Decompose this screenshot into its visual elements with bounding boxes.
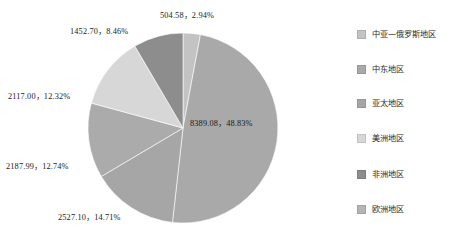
legend-item-label: 亚太地区	[372, 99, 404, 107]
legend-swatch-icon	[357, 30, 366, 39]
legend-item[interactable]: 非洲地区	[357, 168, 404, 180]
legend-item[interactable]: 中亚—俄罗斯地区	[357, 28, 436, 40]
pie-chart-figure: 504.58，2.94%8389.08，48.83%2527.10，14.71%…	[0, 0, 465, 245]
legend-item-label: 中东地区	[372, 65, 404, 73]
pie-data-label: 8389.08，48.83%	[190, 116, 253, 128]
legend-item[interactable]: 美洲地区	[357, 132, 404, 144]
legend-item-label: 非洲地区	[372, 170, 404, 178]
legend-swatch-icon	[357, 65, 366, 74]
pie-svg	[0, 0, 340, 245]
pie-plot-area: 504.58，2.94%8389.08，48.83%2527.10，14.71%…	[0, 0, 340, 245]
legend-item[interactable]: 中东地区	[357, 63, 404, 75]
pie-data-label: 2117.00，12.32%	[8, 89, 70, 101]
pie-data-label: 2187.99，12.74%	[6, 159, 69, 171]
legend-item[interactable]: 欧洲地区	[357, 203, 404, 215]
legend-item-label: 中亚—俄罗斯地区	[372, 30, 436, 38]
legend-swatch-icon	[357, 205, 366, 214]
legend-item-label: 欧洲地区	[372, 205, 404, 213]
legend-item-label: 美洲地区	[372, 134, 404, 142]
pie-data-label: 1452.70，8.46%	[70, 24, 128, 36]
legend-swatch-icon	[357, 99, 366, 108]
legend-item[interactable]: 亚太地区	[357, 97, 404, 109]
legend-swatch-icon	[357, 134, 366, 143]
chart-legend: 中亚—俄罗斯地区中东地区亚太地区美洲地区非洲地区欧洲地区	[357, 0, 465, 245]
pie-data-label: 504.58，2.94%	[160, 8, 214, 20]
pie-data-label: 2527.10，14.71%	[58, 210, 121, 222]
legend-swatch-icon	[357, 170, 366, 179]
